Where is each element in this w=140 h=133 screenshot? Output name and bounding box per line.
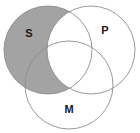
venn-diagram-figure: S P M bbox=[0, 0, 140, 133]
circle-label-m: M bbox=[64, 103, 73, 115]
circle-label-s: S bbox=[25, 27, 32, 39]
venn-diagram-canvas: S P M bbox=[0, 0, 140, 133]
circle-label-p: P bbox=[101, 24, 108, 36]
